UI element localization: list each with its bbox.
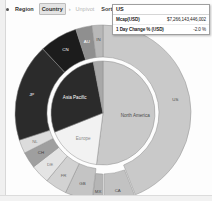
tooltip-label-change: 1 Day Change % (USD) [116, 26, 164, 33]
sunburst-svg: North AmericaEuropeAsia Pacific USCAMXGB… [5, 15, 212, 197]
breadcrumb-item-region[interactable]: Region [13, 4, 36, 14]
tooltip-row-change: 1 Day Change % (USD) -2.0 % [113, 25, 209, 34]
ring-region[interactable] [51, 61, 155, 165]
drag-dot-icon[interactable] [6, 8, 9, 11]
tooltip-row-mcap: Mcap(USD) $7,266,143,446,002 [113, 15, 209, 25]
tooltip-label-mcap: Mcap(USD) [116, 16, 140, 23]
bottom-rail [0, 195, 212, 201]
tooltip-value-mcap: $7,266,143,446,002 [167, 16, 206, 23]
breadcrumb-separator-icon: › [69, 5, 71, 13]
chart-panel: Region Country › Unpivot Sort Pivot Nort… [0, 0, 212, 201]
chart-tooltip: US Mcap(USD) $7,266,143,446,002 1 Day Ch… [112, 4, 210, 35]
breadcrumb-item-country[interactable]: Country [39, 3, 66, 15]
unpivot-button[interactable]: Unpivot [74, 4, 97, 14]
tooltip-value-change: -2.0 % [193, 26, 206, 33]
tooltip-title: US [113, 5, 209, 15]
sunburst-chart[interactable]: North AmericaEuropeAsia Pacific USCAMXGB… [5, 15, 212, 197]
